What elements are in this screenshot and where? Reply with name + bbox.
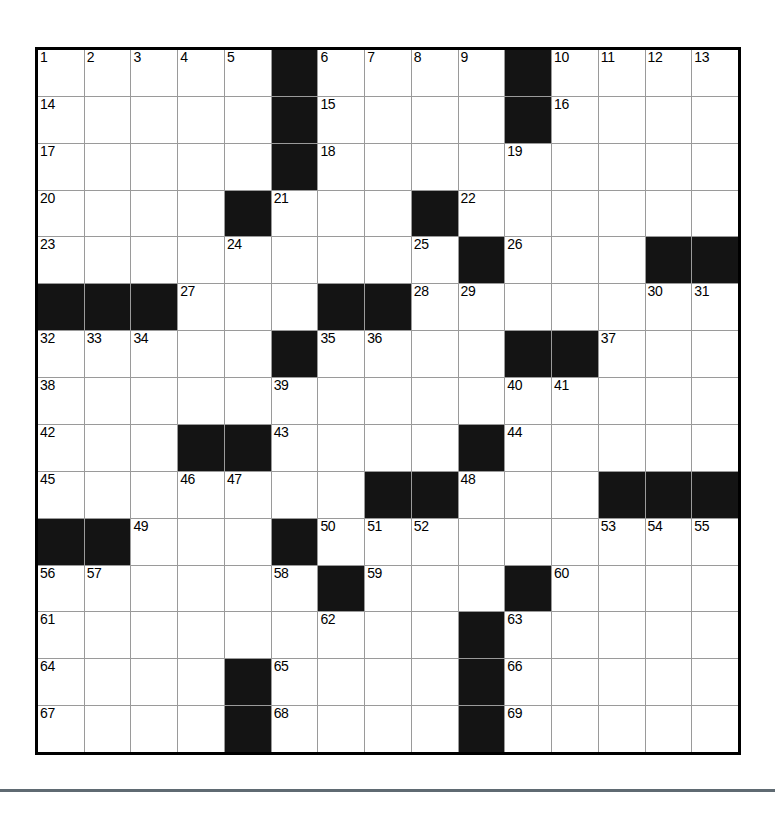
grid-cell[interactable] <box>131 659 177 705</box>
grid-cell[interactable] <box>365 425 411 471</box>
grid-cell[interactable] <box>225 284 271 330</box>
grid-cell[interactable] <box>692 97 738 143</box>
grid-cell[interactable] <box>599 191 645 237</box>
grid-cell[interactable] <box>318 378 364 424</box>
grid-cell[interactable] <box>178 659 224 705</box>
grid-cell[interactable] <box>225 612 271 658</box>
grid-cell[interactable] <box>692 144 738 190</box>
grid-cell[interactable] <box>646 97 692 143</box>
grid-cell[interactable]: 16 <box>552 97 598 143</box>
grid-cell[interactable]: 24 <box>225 237 271 283</box>
grid-cell[interactable] <box>272 472 318 518</box>
grid-cell[interactable]: 42 <box>38 425 84 471</box>
grid-cell[interactable] <box>646 706 692 752</box>
grid-cell[interactable] <box>412 378 458 424</box>
grid-cell[interactable] <box>365 378 411 424</box>
grid-cell[interactable]: 27 <box>178 284 224 330</box>
grid-cell[interactable]: 9 <box>459 50 505 96</box>
grid-cell[interactable] <box>365 706 411 752</box>
grid-cell[interactable]: 1 <box>38 50 84 96</box>
grid-cell[interactable]: 28 <box>412 284 458 330</box>
grid-cell[interactable] <box>599 566 645 612</box>
grid-cell[interactable] <box>552 284 598 330</box>
grid-cell[interactable] <box>459 519 505 565</box>
grid-cell[interactable]: 43 <box>272 425 318 471</box>
grid-cell[interactable] <box>225 519 271 565</box>
grid-cell[interactable]: 56 <box>38 566 84 612</box>
grid-cell[interactable] <box>131 97 177 143</box>
grid-cell[interactable] <box>412 97 458 143</box>
grid-cell[interactable] <box>599 144 645 190</box>
grid-cell[interactable]: 10 <box>552 50 598 96</box>
grid-cell[interactable]: 7 <box>365 50 411 96</box>
grid-cell[interactable] <box>412 612 458 658</box>
grid-cell[interactable]: 67 <box>38 706 84 752</box>
grid-cell[interactable]: 5 <box>225 50 271 96</box>
grid-cell[interactable] <box>599 97 645 143</box>
grid-cell[interactable] <box>505 519 551 565</box>
grid-cell[interactable]: 12 <box>646 50 692 96</box>
grid-cell[interactable] <box>505 284 551 330</box>
grid-cell[interactable]: 51 <box>365 519 411 565</box>
grid-cell[interactable] <box>272 237 318 283</box>
grid-cell[interactable]: 54 <box>646 519 692 565</box>
grid-cell[interactable]: 2 <box>85 50 131 96</box>
grid-cell[interactable]: 4 <box>178 50 224 96</box>
grid-cell[interactable]: 48 <box>459 472 505 518</box>
grid-cell[interactable] <box>365 97 411 143</box>
grid-cell[interactable]: 38 <box>38 378 84 424</box>
grid-cell[interactable] <box>552 659 598 705</box>
grid-cell[interactable] <box>318 706 364 752</box>
grid-cell[interactable] <box>412 144 458 190</box>
grid-cell[interactable]: 25 <box>412 237 458 283</box>
grid-cell[interactable] <box>365 612 411 658</box>
grid-cell[interactable] <box>692 706 738 752</box>
grid-cell[interactable] <box>646 566 692 612</box>
grid-cell[interactable]: 17 <box>38 144 84 190</box>
grid-cell[interactable]: 3 <box>131 50 177 96</box>
grid-cell[interactable] <box>646 425 692 471</box>
grid-cell[interactable] <box>131 144 177 190</box>
grid-cell[interactable] <box>552 472 598 518</box>
grid-cell[interactable] <box>318 659 364 705</box>
grid-cell[interactable] <box>552 612 598 658</box>
grid-cell[interactable]: 31 <box>692 284 738 330</box>
grid-cell[interactable] <box>692 331 738 377</box>
grid-cell[interactable] <box>131 425 177 471</box>
grid-cell[interactable] <box>178 331 224 377</box>
grid-cell[interactable]: 41 <box>552 378 598 424</box>
grid-cell[interactable] <box>131 378 177 424</box>
grid-cell[interactable]: 58 <box>272 566 318 612</box>
grid-cell[interactable] <box>225 97 271 143</box>
grid-cell[interactable]: 61 <box>38 612 84 658</box>
grid-cell[interactable]: 63 <box>505 612 551 658</box>
grid-cell[interactable]: 49 <box>131 519 177 565</box>
grid-cell[interactable] <box>692 612 738 658</box>
grid-cell[interactable]: 18 <box>318 144 364 190</box>
grid-cell[interactable] <box>692 191 738 237</box>
crossword-grid[interactable]: 1234567891011121314151617181920212223242… <box>38 50 738 752</box>
grid-cell[interactable]: 45 <box>38 472 84 518</box>
grid-cell[interactable] <box>85 612 131 658</box>
grid-cell[interactable] <box>85 144 131 190</box>
grid-cell[interactable] <box>646 659 692 705</box>
grid-cell[interactable] <box>272 284 318 330</box>
grid-cell[interactable]: 14 <box>38 97 84 143</box>
grid-cell[interactable] <box>599 284 645 330</box>
grid-cell[interactable] <box>318 425 364 471</box>
grid-cell[interactable] <box>85 706 131 752</box>
grid-cell[interactable] <box>365 237 411 283</box>
grid-cell[interactable]: 66 <box>505 659 551 705</box>
grid-cell[interactable] <box>178 612 224 658</box>
grid-cell[interactable] <box>85 659 131 705</box>
grid-cell[interactable]: 35 <box>318 331 364 377</box>
grid-cell[interactable] <box>505 472 551 518</box>
grid-cell[interactable]: 39 <box>272 378 318 424</box>
grid-cell[interactable]: 23 <box>38 237 84 283</box>
grid-cell[interactable] <box>225 331 271 377</box>
grid-cell[interactable]: 53 <box>599 519 645 565</box>
grid-cell[interactable] <box>412 706 458 752</box>
grid-cell[interactable] <box>178 237 224 283</box>
grid-cell[interactable] <box>225 566 271 612</box>
grid-cell[interactable] <box>318 191 364 237</box>
